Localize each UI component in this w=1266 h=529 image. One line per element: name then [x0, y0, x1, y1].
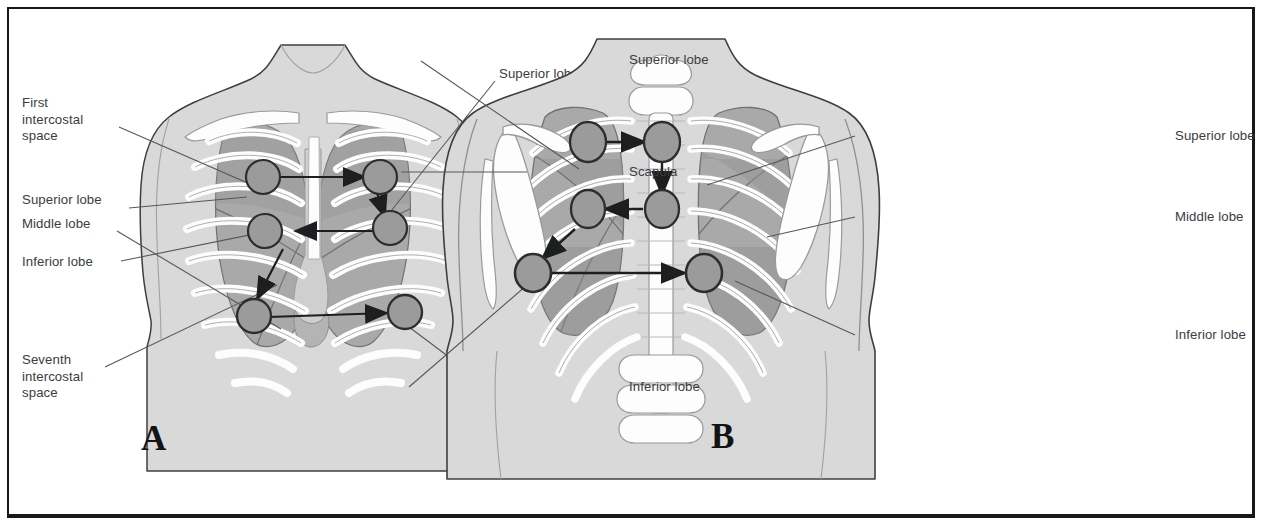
label-superior-lobe-right: Superior lobe — [1175, 128, 1255, 145]
label-superior-lobe-left: Superior lobe — [629, 52, 709, 69]
label-scapula: Scapula — [629, 164, 677, 181]
panel-b-artwork — [9, 9, 1257, 520]
panel-b-posterior-chest: Superior lobe Scapula Inferior lobe Supe… — [633, 9, 1257, 514]
panel-b-letter: B — [711, 417, 734, 457]
figure-root: First intercostal space Superior lobe Mi… — [0, 0, 1266, 529]
figure-border: First intercostal space Superior lobe Mi… — [7, 7, 1255, 518]
label-inferior-lobe-left: Inferior lobe — [629, 379, 700, 396]
label-inferior-lobe-right: Inferior lobe — [1175, 327, 1246, 344]
label-middle-lobe-right: Middle lobe — [1175, 209, 1244, 226]
